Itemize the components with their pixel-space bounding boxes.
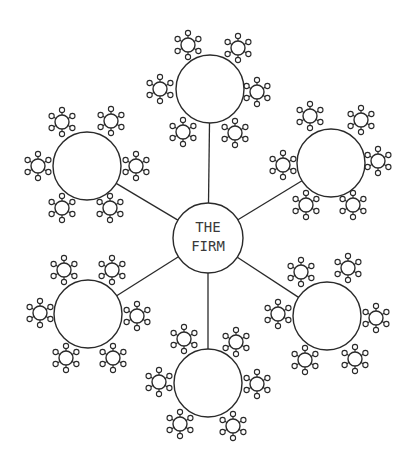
leaf-node-circle [48,316,53,321]
leaf-node-circle [244,375,249,380]
leaf-node-circle [134,325,139,330]
leaf-node-circle [145,307,150,312]
satellite-node [98,106,124,135]
leaf-node-circle [270,156,275,161]
leaf-node-circle [46,157,51,162]
major-node-circle [297,129,365,197]
leaf-node-circle [124,307,129,312]
satellite-node [124,301,150,330]
leaf-node-circle [35,151,40,156]
leaf-node-circle [48,304,53,309]
leaf-node-circle [49,199,54,204]
hub-label-line-1: THE [195,219,220,235]
leaf-node-circle [297,107,302,112]
leaf-node-circle [181,348,186,353]
leaf-node-circle [170,135,175,140]
leaf-node-circle [335,259,340,264]
leaf-node-circle [185,54,190,59]
leaf-node-circle [361,208,366,213]
leaf-node-circle [51,261,56,266]
leaf-node-circle [74,349,79,354]
leaf-node-circle [335,271,340,276]
satellite-node [171,324,197,353]
leaf-node-circle [314,196,319,201]
leaf-node-circle [291,156,296,161]
leaf-node-circle [365,152,370,157]
leaf-node-circle [369,123,374,128]
leaf-node-circle [314,208,319,213]
major-node-circle [293,282,361,350]
leaf-node-circle [340,208,345,213]
leaf-node-circle [222,124,227,129]
leaf-node-circle [235,33,240,38]
leaf-node-circle [118,211,123,216]
major-node-circle [176,55,244,123]
satellite-circle [369,311,383,325]
leaf-node-circle [225,51,230,56]
satellite-node [365,146,391,175]
leaf-node-circle [348,111,353,116]
satellite-node [220,411,246,440]
leaf-node-circle [286,317,291,322]
leaf-node-circle [307,101,312,106]
satellite-circle [103,201,117,215]
satellite-node [270,150,296,179]
satellite-node [265,299,291,328]
leaf-node-circle [98,124,103,129]
satellite-node [288,257,314,286]
leaf-node-circle [168,92,173,97]
leaf-node-circle [369,111,374,116]
leaf-node-circle [70,199,75,204]
leaf-node-circle [309,263,314,268]
leaf-node-circle [280,174,285,179]
leaf-node-circle [340,196,345,201]
leaf-node-circle [345,253,350,258]
leaf-node-circle [70,125,75,130]
major-node-circle [174,349,242,417]
satellite-circle [152,375,166,389]
satellite-circle [271,307,285,321]
leaf-node-circle [313,363,318,368]
satellite-node [175,30,201,59]
leaf-node-circle [375,170,380,175]
leaf-node-circle [244,333,249,338]
leaf-node-circle [254,77,259,82]
leaf-node-circle [244,95,249,100]
leaf-node-circle [275,299,280,304]
satellite-circle [226,419,240,433]
leaf-node-circle [286,305,291,310]
leaf-node-circle [100,361,105,366]
node-cluster-top [147,30,270,147]
satellite-node [335,253,361,282]
leaf-node-circle [302,369,307,374]
leaf-node-circle [384,309,389,314]
leaf-node-circle [303,214,308,219]
satellite-node [293,190,319,219]
leaf-node-circle [53,361,58,366]
leaf-node-circle [243,136,248,141]
leaf-node-circle [191,123,196,128]
satellite-circle [59,351,73,365]
leaf-node-circle [123,157,128,162]
leaf-node-circle [293,208,298,213]
leaf-node-circle [188,415,193,420]
leaf-node-circle [386,152,391,157]
satellite-circle [228,126,242,140]
leaf-node-circle [350,214,355,219]
leaf-node-circle [108,106,113,111]
leaf-node-circle [168,80,173,85]
leaf-node-circle [241,429,246,434]
node-cluster-upper-left [25,106,149,222]
satellite-circle [177,332,191,346]
satellite-circle [173,417,187,431]
leaf-node-circle [37,298,42,303]
leaf-node-circle [49,211,54,216]
leaf-node-circle [61,279,66,284]
leaf-node-circle [157,74,162,79]
leaf-node-circle [192,342,197,347]
leaf-node-circle [265,387,270,392]
leaf-node-circle [107,193,112,198]
leaf-node-circle [292,363,297,368]
leaf-node-circle [223,333,228,338]
leaf-node-circle [109,279,114,284]
